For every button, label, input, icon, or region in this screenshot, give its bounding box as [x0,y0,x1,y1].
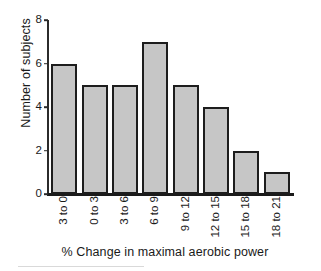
x-axis-tick-labels: 3 to 00 to 33 to 66 to 99 to 1212 to 151… [49,196,292,242]
x-axis-tick-label: 12 to 15 [210,196,222,238]
bar [82,85,108,194]
x-axis-tick-label: 9 to 12 [180,196,192,231]
x-axis-tick-label: 3 to 0 [58,196,70,225]
bar [112,85,138,194]
y-axis-tick-mark [44,150,48,152]
y-axis-tick-mark [44,19,48,21]
x-axis-tick-label-slot: 9 to 12 [173,196,199,242]
x-axis-title: % Change in maximal aerobic power [40,245,290,259]
y-axis-tick-label: 4 [28,101,42,113]
bar [203,107,229,194]
x-axis-tick-label-slot: 15 to 18 [233,196,259,242]
x-axis-tick-label: 0 to 3 [89,196,101,225]
y-axis-tick-label: 6 [28,58,42,70]
bar [173,85,199,194]
y-axis-tick-mark [44,63,48,65]
x-axis-tick-label: 3 to 6 [119,196,131,225]
x-axis-tick-label-slot: 6 to 9 [142,196,168,242]
y-axis-tick-label: 2 [28,145,42,157]
bar [264,172,290,194]
bar [51,64,77,195]
plot-area [49,20,292,194]
bar-chart-figure: Number of subjects 02468 3 to 00 to 33 t… [0,0,321,271]
x-axis-tick-label-slot: 3 to 0 [51,196,77,242]
y-axis-tick-labels: 02468 [28,0,42,271]
y-axis-tick-label: 0 [28,188,42,200]
y-axis-tick-mark [44,106,48,108]
x-axis-tick-label: 6 to 9 [150,196,162,225]
x-axis-tick-label-slot: 0 to 3 [82,196,108,242]
x-axis-tick-label-slot: 12 to 15 [203,196,229,242]
x-axis-tick-label: 18 to 21 [271,196,283,238]
bottom-rule-divider [18,266,144,267]
x-axis-tick-label-slot: 3 to 6 [112,196,138,242]
y-axis-tick-mark [44,193,48,195]
x-axis-tick-label: 15 to 18 [241,196,253,238]
bar [233,151,259,195]
y-axis-tick-label: 8 [28,14,42,26]
bar [142,42,168,194]
x-axis-tick-label-slot: 18 to 21 [264,196,290,242]
